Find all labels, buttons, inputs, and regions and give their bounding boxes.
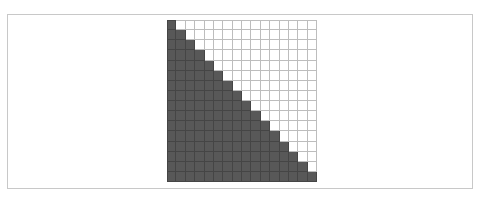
empty-cell [289, 101, 298, 111]
empty-cell [242, 61, 251, 71]
filled-cell [280, 162, 289, 172]
filled-cell [186, 111, 195, 121]
filled-cell [205, 71, 214, 81]
empty-cell [298, 30, 307, 40]
empty-cell [195, 20, 204, 30]
filled-cell [251, 142, 260, 152]
triangular-matrix-grid [167, 20, 317, 182]
empty-cell [280, 111, 289, 121]
filled-cell [195, 50, 204, 60]
filled-cell [186, 61, 195, 71]
empty-cell [223, 20, 232, 30]
filled-cell [186, 152, 195, 162]
filled-cell [186, 101, 195, 111]
filled-cell [167, 142, 176, 152]
empty-cell [233, 40, 242, 50]
empty-cell [280, 131, 289, 141]
filled-cell [308, 172, 317, 182]
filled-cell [270, 142, 279, 152]
filled-cell [186, 162, 195, 172]
empty-cell [308, 50, 317, 60]
empty-cell [223, 40, 232, 50]
empty-cell [251, 71, 260, 81]
filled-cell [298, 162, 307, 172]
filled-cell [214, 81, 223, 91]
empty-cell [176, 20, 185, 30]
filled-cell [176, 162, 185, 172]
empty-cell [308, 101, 317, 111]
filled-cell [205, 142, 214, 152]
empty-cell [251, 20, 260, 30]
empty-cell [270, 91, 279, 101]
filled-cell [167, 71, 176, 81]
filled-cell [251, 162, 260, 172]
empty-cell [289, 121, 298, 131]
empty-cell [214, 30, 223, 40]
empty-cell [298, 40, 307, 50]
empty-cell [298, 131, 307, 141]
empty-cell [289, 131, 298, 141]
filled-cell [233, 111, 242, 121]
filled-cell [280, 152, 289, 162]
empty-cell [280, 20, 289, 30]
empty-cell [308, 81, 317, 91]
filled-cell [223, 101, 232, 111]
filled-cell [214, 142, 223, 152]
filled-cell [176, 121, 185, 131]
filled-cell [233, 142, 242, 152]
filled-cell [261, 152, 270, 162]
filled-cell [242, 101, 251, 111]
filled-cell [251, 152, 260, 162]
empty-cell [261, 61, 270, 71]
filled-cell [214, 101, 223, 111]
filled-cell [205, 121, 214, 131]
empty-cell [298, 101, 307, 111]
empty-cell [308, 131, 317, 141]
empty-cell [233, 30, 242, 40]
empty-cell [270, 61, 279, 71]
empty-cell [233, 81, 242, 91]
empty-cell [308, 40, 317, 50]
filled-cell [167, 162, 176, 172]
empty-cell [270, 50, 279, 60]
filled-cell [214, 152, 223, 162]
empty-cell [289, 81, 298, 91]
filled-cell [176, 131, 185, 141]
empty-cell [289, 71, 298, 81]
filled-cell [233, 172, 242, 182]
filled-cell [233, 101, 242, 111]
empty-cell [233, 50, 242, 60]
empty-cell [270, 121, 279, 131]
empty-cell [298, 81, 307, 91]
empty-cell [298, 121, 307, 131]
empty-cell [251, 91, 260, 101]
empty-cell [214, 61, 223, 71]
empty-cell [298, 142, 307, 152]
empty-cell [308, 142, 317, 152]
filled-cell [167, 30, 176, 40]
filled-cell [167, 40, 176, 50]
filled-cell [242, 121, 251, 131]
filled-cell [205, 91, 214, 101]
empty-cell [214, 50, 223, 60]
empty-cell [261, 71, 270, 81]
empty-cell [251, 50, 260, 60]
empty-cell [195, 40, 204, 50]
empty-cell [280, 30, 289, 40]
empty-cell [270, 20, 279, 30]
filled-cell [195, 121, 204, 131]
filled-cell [214, 111, 223, 121]
filled-cell [176, 152, 185, 162]
empty-cell [289, 50, 298, 60]
empty-cell [223, 71, 232, 81]
filled-cell [261, 162, 270, 172]
filled-cell [223, 172, 232, 182]
empty-cell [261, 91, 270, 101]
filled-cell [167, 101, 176, 111]
filled-cell [223, 81, 232, 91]
filled-cell [214, 91, 223, 101]
filled-cell [167, 131, 176, 141]
empty-cell [223, 61, 232, 71]
filled-cell [289, 152, 298, 162]
empty-cell [186, 20, 195, 30]
